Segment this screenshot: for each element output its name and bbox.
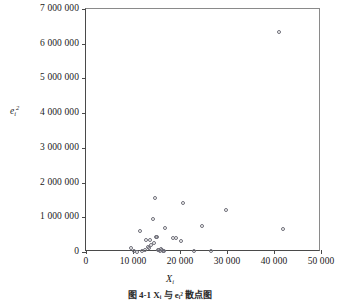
x-tick — [321, 250, 322, 254]
scatter-point — [224, 208, 228, 212]
scatter-point — [179, 239, 183, 243]
y-tick-label: 6 000 000 — [40, 39, 79, 49]
y-axis-title: ei2 — [10, 104, 19, 117]
x-tick-label: 40 000 — [261, 257, 288, 267]
y-axis-subscript: i — [14, 110, 16, 117]
scatter-point — [162, 249, 166, 253]
scatter-point — [200, 224, 204, 228]
figure-caption: 图 4-1 Xᵢ 与 eᵢ² 散点图 — [0, 288, 340, 301]
x-axis-subscript: i — [172, 278, 174, 285]
y-tick-label: 3 000 000 — [40, 143, 79, 153]
y-axis-superscript: 2 — [16, 104, 19, 111]
x-tick — [227, 250, 228, 254]
scatter-point — [209, 249, 213, 253]
scatter-point — [163, 226, 167, 230]
x-tick — [86, 250, 87, 254]
x-tick — [274, 250, 275, 254]
scatter-points-layer — [86, 9, 319, 250]
x-tick-label: 20 000 — [167, 257, 194, 267]
x-tick-label: 10 000 — [120, 257, 147, 267]
scatter-point — [153, 196, 157, 200]
x-tick — [180, 250, 181, 254]
y-tick-label: 4 000 000 — [40, 108, 79, 118]
x-tick-label: 30 000 — [214, 257, 241, 267]
scatter-point — [174, 236, 178, 240]
scatter-point — [192, 249, 196, 253]
scatter-point — [277, 30, 281, 34]
scatter-point — [281, 227, 285, 231]
scatter-point — [152, 241, 156, 245]
scatter-point — [138, 229, 142, 233]
plot-area: 01 000 0002 000 0003 000 0004 000 0005 0… — [85, 8, 320, 251]
y-tick-label: 7 000 000 — [40, 4, 79, 14]
scatter-point — [155, 235, 159, 239]
scatter-point — [148, 238, 152, 242]
x-tick-label: 50 000 — [308, 257, 335, 267]
scatter-point — [135, 250, 139, 254]
y-tick-label: 2 000 000 — [40, 178, 79, 188]
y-tick-label: 0 — [74, 247, 79, 257]
x-axis-title: Xi — [0, 273, 340, 285]
scatter-point — [181, 201, 185, 205]
scatter-point — [151, 217, 155, 221]
x-tick-label: 0 — [84, 257, 89, 267]
y-tick-label: 1 000 000 — [40, 213, 79, 223]
y-tick-label: 5 000 000 — [40, 74, 79, 84]
